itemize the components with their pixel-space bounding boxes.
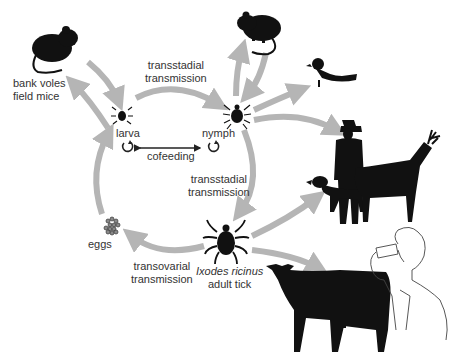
tick-icon-larva (111, 107, 133, 124)
arrow-nymph-to-adult (240, 130, 253, 212)
adult-tick-label: Ixodes ricinus adult tick (196, 265, 263, 291)
mouse-icon-top (237, 12, 281, 55)
cow-icon (266, 264, 391, 352)
cofeeding-label: cofeeding (147, 150, 195, 163)
arrow-nymph-to-bird (254, 90, 300, 110)
larva-label: larva (116, 127, 140, 140)
mouse-icon-left (32, 26, 78, 73)
transovarial-line2: transmission (131, 273, 193, 286)
rodent-hosts-line2: field mice (13, 90, 66, 103)
arrow-larva-to-nymph (136, 89, 218, 104)
arrow-eggs-to-larva (96, 134, 108, 214)
rodent-hosts-line1: bank voles (13, 77, 66, 90)
nymph-label: nymph (202, 127, 235, 140)
arrow-larva-to-rodent (74, 84, 108, 128)
deer-icon (355, 130, 440, 222)
transstadial-right-line1: transstadial (188, 173, 250, 186)
adult-species-name: Ixodes ricinus (196, 265, 263, 278)
arrow-adult-to-eggs (132, 236, 204, 250)
transstadial-top-label: transstadial transmission (145, 59, 207, 85)
transovarial-label: transovarial transmission (131, 260, 193, 286)
tick-lifecycle-diagram: bank voles field mice transstadial trans… (0, 0, 463, 358)
rodent-hosts-label: bank voles field mice (13, 77, 66, 103)
bird-icon (306, 58, 357, 87)
arrow-nymph-to-human (254, 117, 336, 130)
arrow-adult-to-human (252, 198, 316, 236)
arrow-rodent-to-nymph (248, 53, 266, 94)
eggs-icon (104, 217, 120, 235)
adult-stage-name: adult tick (196, 278, 263, 291)
transovarial-line1: transovarial (131, 260, 193, 273)
transstadial-top-line2: transmission (145, 72, 207, 85)
arrow-rodent-to-larva (88, 62, 118, 100)
tick-icon-adult (203, 220, 249, 264)
tick-icon-nymph (223, 105, 251, 130)
eggs-label: eggs (88, 238, 112, 251)
transstadial-top-line1: transstadial (145, 59, 207, 72)
transstadial-right-label: transstadial transmission (188, 173, 250, 199)
transstadial-right-line2: transmission (188, 186, 250, 199)
arrow-nymph-to-rodent (236, 50, 242, 96)
